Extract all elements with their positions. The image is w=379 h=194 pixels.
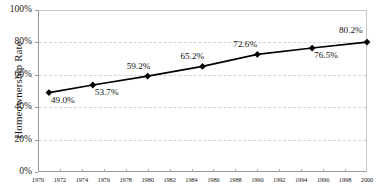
data-point-label: 65.2% bbox=[181, 52, 205, 61]
data-point-label: 76.5% bbox=[314, 51, 338, 60]
homeownership-rate-line-chart: Homeownership Rate 0%20%40%60%80%100% 19… bbox=[0, 0, 379, 194]
data-point-label: 53.7% bbox=[95, 88, 119, 97]
data-point-label: 80.2% bbox=[339, 26, 363, 35]
data-point-label: 49.0% bbox=[51, 96, 75, 105]
data-point-label: 59.2% bbox=[127, 62, 151, 71]
data-point-label: 72.6% bbox=[233, 40, 257, 49]
data-point-labels: 49.0%53.7%59.2%65.2%72.6%76.5%80.2% bbox=[0, 0, 379, 194]
